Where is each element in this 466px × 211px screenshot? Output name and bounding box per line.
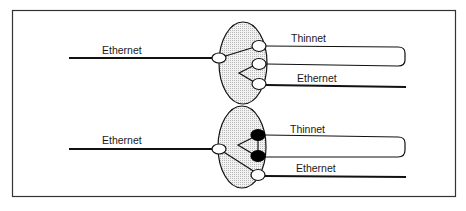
- ethernet-label-right: Ethernet: [296, 162, 336, 174]
- ethernet-label-right: Ethernet: [297, 72, 337, 84]
- thinnet-loop: [266, 46, 405, 66]
- network-diagram: Ethernet Thinnet Ethernet Ethernet: [0, 0, 466, 211]
- thinnet-label: Thinnet: [291, 32, 326, 44]
- thinnet-loop: [265, 135, 405, 157]
- thinnet-label: Thinnet: [290, 123, 325, 135]
- port-open-icon: [212, 144, 226, 154]
- panel-bottom: Ethernet Thinnet Ethernet: [69, 106, 406, 188]
- port-closed-icon: [251, 151, 265, 162]
- panel-top: Ethernet Thinnet Ethernet: [69, 22, 406, 104]
- ethernet-line-right: [265, 176, 406, 177]
- ethernet-line-right: [266, 85, 406, 87]
- port-open-icon: [252, 79, 266, 90]
- port-closed-icon: [251, 130, 265, 141]
- ethernet-label-left: Ethernet: [102, 44, 142, 56]
- port-open-icon: [212, 53, 226, 63]
- port-open-icon: [252, 41, 266, 52]
- port-open-icon: [251, 170, 265, 181]
- port-open-icon: [252, 59, 266, 70]
- ethernet-label-left: Ethernet: [102, 134, 142, 146]
